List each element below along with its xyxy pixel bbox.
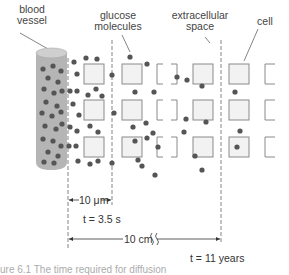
glucose-molecule bbox=[144, 61, 149, 66]
glucose-molecule bbox=[199, 83, 204, 88]
glucose-molecule bbox=[95, 129, 100, 134]
glucose-molecule bbox=[41, 159, 46, 164]
glucose-molecule bbox=[93, 86, 98, 91]
glucose-molecule bbox=[150, 130, 155, 135]
glucose-molecule bbox=[39, 110, 44, 115]
cell-square bbox=[122, 100, 142, 120]
glucose-molecule bbox=[70, 101, 75, 106]
glucose-molecule bbox=[42, 123, 47, 128]
label-blood-vessel: blood vessel bbox=[12, 4, 52, 26]
glucose-molecule bbox=[40, 66, 45, 71]
glucose-molecule bbox=[237, 128, 242, 133]
glucose-molecule bbox=[54, 103, 59, 108]
glucose-molecule bbox=[59, 121, 64, 126]
glucose-molecule bbox=[85, 92, 90, 97]
label-blood-vessel-line2: vessel bbox=[12, 15, 52, 26]
glucose-molecule bbox=[192, 153, 197, 158]
glucose-molecule bbox=[155, 144, 160, 149]
cells-grid bbox=[84, 64, 275, 157]
cell-square bbox=[229, 64, 249, 84]
glucose-molecule bbox=[135, 157, 140, 162]
glucose-molecule bbox=[203, 119, 208, 124]
glucose-molecule bbox=[51, 160, 56, 165]
glucose-molecule bbox=[74, 88, 79, 93]
glucose-molecule bbox=[50, 138, 55, 143]
figure-caption: ure 6.1 The time required for diffusion bbox=[0, 264, 166, 275]
glucose-molecule bbox=[58, 143, 63, 148]
glucose-molecule bbox=[144, 135, 149, 140]
cell-bracket bbox=[157, 64, 177, 84]
glucose-molecule bbox=[73, 143, 78, 148]
glucose-molecule bbox=[76, 112, 81, 117]
glucose-molecule bbox=[71, 59, 76, 64]
glucose-leader-line bbox=[122, 35, 130, 52]
glucose-molecule bbox=[143, 120, 148, 125]
glucose-molecule bbox=[184, 77, 189, 82]
glucose-molecule bbox=[109, 72, 114, 77]
glucose-molecule bbox=[174, 74, 179, 79]
glucose-molecule bbox=[139, 163, 144, 168]
extracellular-leader-line bbox=[205, 37, 210, 43]
cell-square bbox=[193, 100, 213, 120]
glucose-molecule bbox=[94, 56, 99, 61]
glucose-molecule bbox=[50, 63, 55, 68]
cell-square bbox=[84, 100, 104, 120]
glucose-molecule bbox=[109, 160, 114, 165]
label-extracellular-line2: space bbox=[168, 21, 232, 32]
glucose-molecule bbox=[55, 79, 60, 84]
glucose-molecule bbox=[95, 158, 100, 163]
label-glucose-molecules: glucose molecules bbox=[93, 10, 143, 32]
glucose-molecule bbox=[181, 129, 186, 134]
cell-partial bbox=[265, 64, 275, 84]
glucose-molecule bbox=[55, 153, 60, 158]
glucose-molecule bbox=[151, 89, 156, 94]
blood-vessel-leader-line bbox=[20, 33, 48, 49]
glucose-molecule bbox=[87, 161, 92, 166]
label-extracellular-space: extracellular space bbox=[168, 10, 232, 32]
glucose-molecule bbox=[45, 149, 50, 154]
cell-square bbox=[122, 137, 142, 157]
cell-square bbox=[84, 64, 104, 84]
glucose-molecule bbox=[58, 109, 63, 114]
glucose-molecule bbox=[41, 86, 46, 91]
glucose-molecule bbox=[74, 71, 79, 76]
glucose-molecule bbox=[111, 110, 116, 115]
glucose-molecule bbox=[51, 90, 56, 95]
glucose-molecule bbox=[127, 54, 132, 59]
cell-bracket bbox=[157, 100, 177, 120]
glucose-molecule bbox=[199, 167, 204, 172]
label-cell: cell bbox=[255, 16, 275, 27]
glucose-molecule bbox=[58, 68, 63, 73]
cell-square bbox=[193, 64, 213, 84]
cell-square bbox=[229, 100, 249, 120]
cell-leader-line bbox=[244, 29, 258, 61]
measure-time-long: t = 11 years bbox=[190, 252, 244, 264]
glucose-molecule bbox=[53, 126, 58, 131]
glucose-molecule bbox=[45, 75, 50, 80]
measure-10um: 10 μm bbox=[79, 194, 108, 206]
glucose-molecule bbox=[43, 99, 48, 104]
glucose-molecule bbox=[74, 128, 79, 133]
glucose-molecule bbox=[234, 144, 239, 149]
glucose-molecule bbox=[66, 143, 71, 148]
glucose-molecule bbox=[132, 89, 137, 94]
glucose-molecule bbox=[132, 138, 137, 143]
glucose-molecule bbox=[130, 124, 135, 129]
measure-10cm: 10 cm bbox=[124, 233, 153, 245]
glucose-molecule bbox=[67, 124, 72, 129]
glucose-molecule bbox=[99, 93, 104, 98]
cell-square bbox=[122, 64, 142, 84]
glucose-molecule bbox=[75, 158, 80, 163]
cell-square bbox=[84, 137, 104, 157]
label-glucose-line2: molecules bbox=[93, 21, 143, 32]
glucose-molecule bbox=[49, 113, 54, 118]
measure-time-short: t = 3.5 s bbox=[83, 213, 121, 225]
cell-partial bbox=[265, 137, 275, 157]
glucose-molecule bbox=[232, 89, 237, 94]
glucose-molecule bbox=[152, 172, 157, 177]
glucose-molecule bbox=[67, 88, 72, 93]
cell-partial bbox=[265, 100, 275, 120]
glucose-molecule bbox=[87, 123, 92, 128]
